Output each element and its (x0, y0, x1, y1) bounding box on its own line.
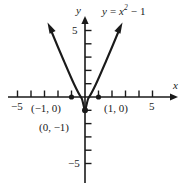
point-label-left-root: (−1, 0) (31, 103, 61, 114)
x-tick-label-minus-5: −5 (11, 101, 23, 112)
equation-lhs: y (102, 5, 107, 17)
point-vertex (82, 107, 88, 113)
y-tick-label-minus-5: −5 (68, 158, 80, 169)
y-axis-arrowhead (81, 16, 88, 24)
x-axis-arrowhead (170, 93, 178, 100)
graph-figure: y=x2−1 x y −5 5 5 −5 (−1, 0) (1, 0) (0, … (0, 0, 184, 185)
y-tick-label-5: 5 (72, 25, 78, 36)
equation-constant: 1 (140, 5, 146, 17)
equation-exponent: 2 (124, 3, 128, 12)
y-axis-name: y (76, 5, 81, 16)
x-axis-name: x (173, 80, 178, 91)
coordinate-plane (0, 0, 184, 185)
equation-label: y=x2−1 (102, 6, 145, 17)
point-right-root (96, 94, 101, 99)
equation-minus: − (131, 5, 137, 17)
point-label-vertex: (0, −1) (39, 122, 69, 133)
point-left-root (69, 94, 74, 99)
x-tick-label-5: 5 (149, 101, 155, 112)
parabola-left-arrowhead (48, 23, 56, 34)
equation-equals: = (110, 5, 116, 17)
parabola-right-arrowhead (114, 23, 122, 34)
point-label-right-root: (1, 0) (104, 103, 128, 114)
